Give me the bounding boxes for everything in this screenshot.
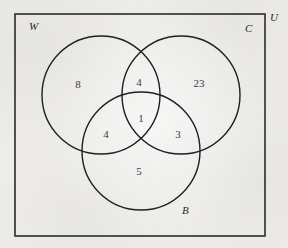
venn-diagram-figure: W C B U 84234135 <box>0 0 288 248</box>
venn-diagram-canvas <box>0 0 288 248</box>
set-label-c: C <box>245 23 252 34</box>
set-label-w: W <box>29 21 38 32</box>
set-circle-b <box>82 92 200 210</box>
region-count-c-only: 23 <box>194 78 205 89</box>
universal-set-label: U <box>270 12 278 23</box>
universal-set-rectangle <box>15 14 265 236</box>
region-count-all-three: 1 <box>138 113 144 124</box>
region-count-w-and-c: 4 <box>136 77 142 88</box>
region-count-w-and-b: 4 <box>103 129 109 140</box>
region-count-b-only: 5 <box>136 166 142 177</box>
set-label-b: B <box>182 205 189 216</box>
set-circle-w <box>42 36 160 154</box>
region-count-w-only: 8 <box>75 79 81 90</box>
region-count-c-and-b: 3 <box>175 129 181 140</box>
